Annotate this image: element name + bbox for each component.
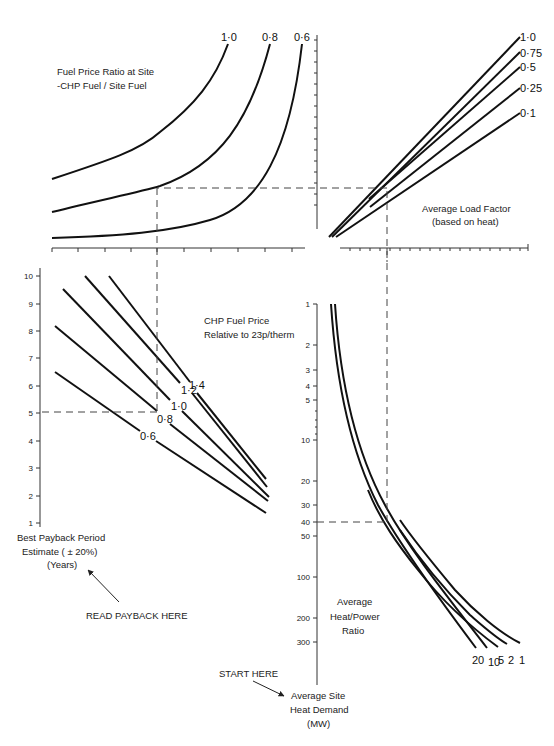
br-tick-30: 30 bbox=[301, 501, 310, 510]
br-tick-3: 3 bbox=[306, 366, 311, 375]
br-label-1: 1 bbox=[519, 654, 525, 666]
tl-label-0-6: 0·6 bbox=[294, 31, 310, 43]
bl-tick-7: 7 bbox=[29, 354, 34, 363]
br-label-2: 2 bbox=[508, 654, 514, 666]
payback-title-line1: Best Payback Period bbox=[17, 532, 105, 543]
bl-tick-4: 4 bbox=[29, 437, 34, 446]
quadrant-payback: 10 9 8 7 6 5 4 3 2 1 0·6 0·8 1·0 1·2 1·4… bbox=[17, 268, 294, 621]
br-label-5: 5 bbox=[498, 654, 504, 666]
demand-title-line2: Heat Demand bbox=[290, 704, 349, 715]
br-tick-1: 1 bbox=[306, 300, 311, 309]
nomogram: 1·0 0·8 0·6 Fuel Price Ratio at Site -CH… bbox=[0, 0, 554, 746]
tr-label-1-0: 1·0 bbox=[520, 31, 536, 43]
bl-tick-3: 3 bbox=[29, 464, 34, 473]
tl-x-ticks bbox=[52, 248, 292, 252]
read-here-arrow-icon bbox=[88, 570, 119, 602]
bl-tick-5: 5 bbox=[29, 409, 34, 418]
br-tick-300: 300 bbox=[297, 638, 311, 647]
demand-title-line1: Average Site bbox=[291, 690, 345, 701]
bl-line-1-0-a bbox=[63, 289, 170, 400]
tr-label-0-5: 0·5 bbox=[520, 61, 536, 73]
br-label-20: 20 bbox=[472, 654, 484, 666]
bl-label-0-6: 0·6 bbox=[140, 430, 156, 442]
load-factor-title-line2: (based on heat) bbox=[432, 216, 499, 227]
quadrant-load-factor: 1·0 0·75 0·5 0·25 0·1 Average Load Facto… bbox=[329, 31, 542, 251]
bl-label-1-0: 1·0 bbox=[171, 400, 187, 412]
start-here-label: START HERE bbox=[219, 668, 278, 679]
br-tick-4: 4 bbox=[306, 382, 311, 391]
fuel-ratio-title-line2: -CHP Fuel / Site Fuel bbox=[57, 80, 147, 91]
tl-label-0-8: 0·8 bbox=[262, 31, 278, 43]
read-payback-here-label: READ PAYBACK HERE bbox=[86, 610, 188, 621]
bl-y-ticks bbox=[36, 276, 40, 523]
bl-tick-6: 6 bbox=[29, 382, 34, 391]
tr-label-0-75: 0·75 bbox=[520, 47, 542, 59]
heat-power-title-line3: Ratio bbox=[342, 625, 364, 636]
br-y-ticks bbox=[313, 304, 317, 642]
tl-label-1-0: 1·0 bbox=[221, 31, 237, 43]
chp-price-title-line2: Relative to 23p/therm bbox=[204, 329, 294, 340]
bl-line-1-2-a bbox=[85, 276, 180, 383]
bl-line-1-0-b bbox=[182, 411, 269, 497]
tr-line-0-25 bbox=[370, 88, 520, 207]
bl-tick-9: 9 bbox=[29, 300, 34, 309]
tr-label-0-1: 0·1 bbox=[520, 107, 536, 119]
br-tick-5: 5 bbox=[306, 396, 311, 405]
load-factor-title-line1: Average Load Factor bbox=[422, 203, 511, 214]
start-here-arrow-icon bbox=[253, 681, 284, 696]
bl-line-1-4-a bbox=[109, 276, 190, 382]
demand-title-line3: (MW) bbox=[307, 718, 330, 729]
bl-label-0-8: 0·8 bbox=[157, 413, 173, 425]
chp-price-title-line1: CHP Fuel Price bbox=[204, 315, 269, 326]
heat-power-title-line1: Average bbox=[337, 596, 372, 607]
payback-title-line2: Estimate ( ± 20%) bbox=[22, 546, 97, 557]
quadrant-fuel-price-ratio: 1·0 0·8 0·6 Fuel Price Ratio at Site -CH… bbox=[52, 31, 317, 252]
fuel-ratio-title-line1: Fuel Price Ratio at Site bbox=[57, 66, 154, 77]
br-tick-20: 20 bbox=[301, 477, 310, 486]
br-tick-100: 100 bbox=[297, 573, 311, 582]
bl-tick-2: 2 bbox=[29, 492, 34, 501]
br-curve-1 bbox=[400, 520, 520, 643]
heat-power-title-line2: Heat/Power bbox=[330, 611, 380, 622]
br-tick-200: 200 bbox=[297, 614, 311, 623]
br-tick-2: 2 bbox=[306, 341, 311, 350]
payback-title-line3: (Years) bbox=[47, 559, 77, 570]
tr-line-0-5 bbox=[369, 67, 520, 199]
bl-tick-1: 1 bbox=[29, 519, 34, 528]
br-tick-50: 50 bbox=[301, 532, 310, 541]
bl-tick-8: 8 bbox=[29, 327, 34, 336]
bl-tick-10: 10 bbox=[24, 272, 33, 281]
br-tick-10: 10 bbox=[301, 436, 310, 445]
br-tick-40: 40 bbox=[301, 518, 310, 527]
bl-line-0-6-a bbox=[55, 372, 140, 431]
tr-label-0-25: 0·25 bbox=[520, 82, 542, 94]
quadrant-heat-demand: 1 2 3 4 5 10 20 30 40 50 100 200 300 20 … bbox=[219, 300, 525, 729]
tl-curve-1-0 bbox=[52, 44, 228, 179]
bl-label-1-4: 1·4 bbox=[189, 379, 205, 391]
